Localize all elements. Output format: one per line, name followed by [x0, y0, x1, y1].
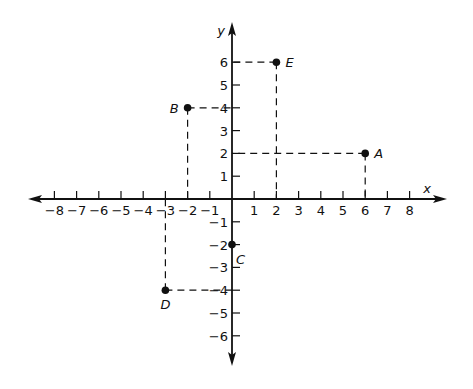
points: ABCDE	[160, 55, 383, 312]
x-tick-label: −8	[45, 203, 64, 218]
y-axis-title: y	[216, 23, 225, 38]
y-tick-label: −4	[209, 283, 228, 298]
x-tick-label: −7	[67, 203, 86, 218]
point-label: A	[373, 146, 383, 161]
y-tick-label: −1	[209, 215, 228, 230]
x-tick-label: 6	[361, 203, 369, 218]
point-label: D	[160, 297, 170, 312]
data-point	[162, 286, 170, 294]
x-tick-label: −5	[111, 203, 130, 218]
x-tick-label: −2	[178, 203, 197, 218]
data-point	[228, 241, 236, 249]
x-tick-label: 4	[317, 203, 325, 218]
coordinate-plane: xy −8−7−6−5−4−3−2−112345678−6−5−4−3−2−11…	[0, 0, 473, 389]
data-point	[184, 104, 192, 112]
point-label: E	[285, 55, 294, 70]
x-tick-label: 7	[383, 203, 391, 218]
y-tick-label: 6	[220, 55, 228, 70]
y-tick-label: 5	[220, 78, 228, 93]
x-tick-label: 3	[294, 203, 302, 218]
axes: xy	[28, 22, 447, 366]
y-tick-label: −3	[209, 260, 228, 275]
y-tick-label: −5	[209, 306, 228, 321]
point-label: C	[236, 252, 246, 267]
y-tick-label: 4	[220, 101, 228, 116]
y-tick-label: 3	[220, 124, 228, 139]
x-tick-label: −4	[134, 203, 153, 218]
y-tick-label: −2	[209, 238, 228, 253]
x-tick-label: 8	[405, 203, 413, 218]
x-tick-label: 1	[250, 203, 258, 218]
y-tick-label: −6	[209, 329, 228, 344]
data-point	[361, 150, 369, 158]
projection-lines	[165, 62, 365, 290]
x-tick-label: −3	[156, 203, 175, 218]
x-axis-title: x	[422, 181, 431, 196]
y-tick-label: 1	[220, 169, 228, 184]
x-tick-label: −6	[89, 203, 108, 218]
point-label: B	[170, 101, 179, 116]
x-tick-label: 2	[272, 203, 280, 218]
y-tick-label: 2	[220, 146, 228, 161]
x-tick-label: 5	[339, 203, 347, 218]
data-point	[273, 58, 281, 66]
